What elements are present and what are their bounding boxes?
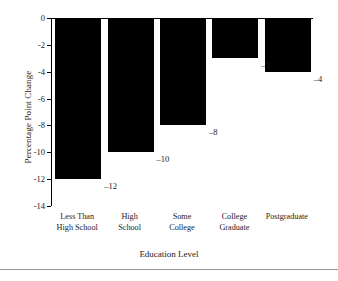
- plot-area: 0-2-4-6-8-10-12-14 –12–10–8–3–4: [51, 18, 313, 206]
- y-tick: [47, 72, 51, 73]
- y-tick-label: 0: [41, 14, 45, 23]
- category-label: Postgraduate: [253, 212, 321, 223]
- y-tick: [47, 206, 51, 207]
- y-tick-label: -10: [34, 148, 45, 157]
- y-axis-line: [51, 18, 52, 206]
- y-tick: [47, 179, 51, 180]
- footer-divider: [0, 269, 338, 270]
- bar: [55, 18, 101, 179]
- y-axis-title: Percentage Point Change: [23, 27, 33, 207]
- bar: [108, 18, 154, 152]
- bar-value-label: –3: [261, 61, 270, 70]
- y-tick-label: -4: [38, 67, 45, 76]
- bar-value-label: –8: [209, 128, 218, 137]
- bar: [265, 18, 311, 72]
- bar-value-label: –10: [157, 155, 170, 164]
- y-tick-label: -2: [38, 41, 45, 50]
- category-label-line: Postgraduate: [253, 212, 321, 223]
- category-label-group: Less ThanHigh SchoolHighSchoolSomeColleg…: [51, 212, 313, 242]
- y-tick: [47, 125, 51, 126]
- x-axis-title: Education Level: [0, 249, 338, 259]
- y-tick-label: -14: [34, 202, 45, 211]
- y-tick-label: -8: [38, 121, 45, 130]
- y-tick: [47, 99, 51, 100]
- bar: [212, 18, 258, 58]
- bar: [160, 18, 206, 125]
- y-tick-label: -12: [34, 175, 45, 184]
- category-label-line: Graduate: [200, 223, 268, 234]
- y-tick-label: -6: [38, 94, 45, 103]
- y-tick: [47, 45, 51, 46]
- y-tick: [47, 152, 51, 153]
- y-tick: [47, 18, 51, 19]
- bar-chart-figure: Percentage Point Change 0-2-4-6-8-10-12-…: [0, 0, 338, 281]
- bar-value-label: –12: [104, 182, 117, 191]
- bar-value-label: –4: [314, 75, 323, 84]
